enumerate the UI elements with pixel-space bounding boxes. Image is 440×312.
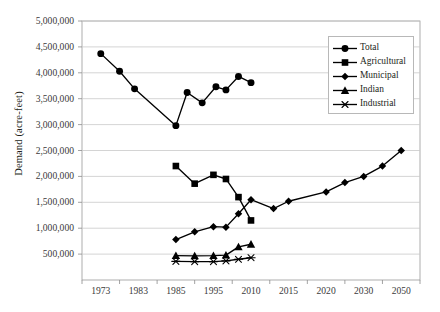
- marker-circle: [199, 99, 206, 106]
- marker-square: [248, 217, 255, 224]
- marker-circle: [184, 89, 191, 96]
- x-axis-label: 1973: [91, 286, 110, 296]
- legend-item-municipal[interactable]: Municipal: [332, 68, 409, 82]
- marker-circle: [248, 79, 255, 86]
- legend-label: Agricultural: [358, 56, 406, 67]
- marker-square: [191, 180, 198, 187]
- x-axis-tick-labels: 197319831985199520102015202020302050: [0, 286, 440, 304]
- x-axis-label: 1983: [129, 286, 148, 296]
- legend-item-agricultural[interactable]: Agricultural: [332, 54, 409, 68]
- legend-label: Indian: [358, 84, 384, 95]
- marker-square: [173, 163, 180, 170]
- legend-symbol: [333, 72, 357, 80]
- legend-label: Industrial: [358, 98, 396, 109]
- chart-legend: TotalAgriculturalMunicipalIndianIndustri…: [328, 36, 414, 114]
- legend-item-total[interactable]: Total: [332, 40, 409, 54]
- legend-symbol: [333, 86, 357, 94]
- marker-circle: [116, 68, 123, 75]
- marker-circle: [212, 83, 219, 90]
- circle-icon: [332, 41, 358, 54]
- demand-line-chart: Demand (acre-feet) 500,0001,000,0001,500…: [0, 0, 440, 312]
- legend-item-industrial[interactable]: Industrial: [332, 96, 409, 110]
- marker-circle: [172, 122, 179, 129]
- x-axis-label: 2010: [241, 286, 260, 296]
- marker-asterisk: [341, 101, 349, 107]
- legend-label: Municipal: [358, 70, 399, 81]
- marker-circle: [342, 45, 349, 52]
- marker-diamond: [341, 72, 349, 80]
- legend-symbol: [333, 45, 357, 52]
- x-axis-label: 1995: [204, 286, 223, 296]
- x-axis-label: 1985: [166, 286, 185, 296]
- marker-square: [235, 194, 242, 201]
- marker-circle: [97, 50, 104, 57]
- diamond-icon: [332, 69, 358, 82]
- x-axis-label: 2050: [392, 286, 411, 296]
- marker-circle: [131, 85, 138, 92]
- legend-symbol: [333, 101, 357, 107]
- marker-square: [210, 172, 217, 179]
- marker-circle: [235, 73, 242, 80]
- triangle-icon: [332, 83, 358, 96]
- marker-square: [223, 176, 230, 183]
- x-axis-label: 2020: [317, 286, 336, 296]
- marker-square: [342, 59, 349, 66]
- marker-circle: [222, 86, 229, 93]
- x-axis-label: 2030: [354, 286, 373, 296]
- legend-label: Total: [358, 42, 379, 53]
- x-axis-label: 2015: [279, 286, 298, 296]
- legend-item-indian[interactable]: Indian: [332, 82, 409, 96]
- legend-symbol: [333, 59, 357, 66]
- asterisk-icon: [332, 97, 358, 110]
- square-icon: [332, 55, 358, 68]
